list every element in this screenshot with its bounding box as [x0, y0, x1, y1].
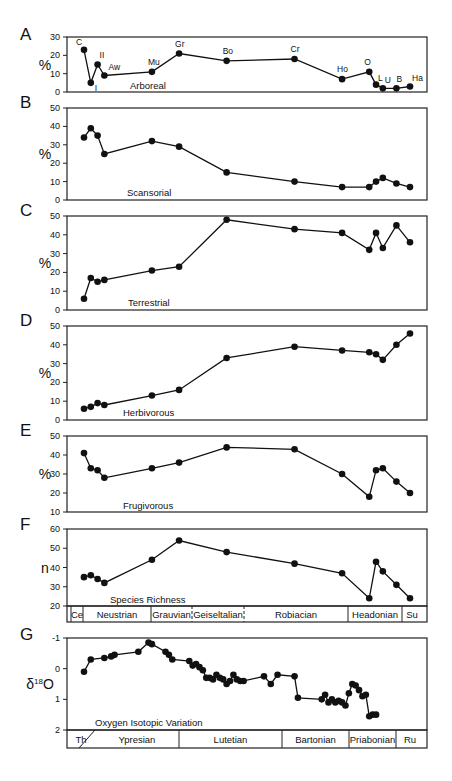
data-point: [407, 330, 414, 337]
data-point: [223, 355, 230, 362]
series-label: Species Richness: [110, 594, 186, 605]
data-point: [373, 178, 380, 185]
y-axis-label: %: [39, 255, 51, 271]
point-label: L: [378, 73, 383, 83]
data-point: [291, 560, 298, 567]
y-tick-label: 40: [50, 450, 60, 460]
data-point: [322, 691, 329, 698]
data-point: [176, 50, 183, 57]
data-point: [176, 537, 183, 544]
stage-label: Th: [75, 734, 86, 745]
panel-letter: D: [20, 311, 32, 330]
y-tick-label: 10: [50, 177, 60, 187]
panel-letter: C: [20, 201, 32, 220]
data-point: [295, 695, 302, 702]
y-axis-label: %: [39, 146, 51, 162]
data-point: [200, 667, 207, 674]
stage-label: Ypresian: [119, 734, 156, 745]
data-point: [366, 69, 373, 76]
data-point: [373, 711, 380, 718]
y-tick-label: 0: [55, 87, 60, 97]
panel-letter: F: [20, 515, 30, 534]
data-point: [380, 245, 387, 252]
data-point: [101, 475, 108, 482]
data-point: [94, 400, 101, 407]
y-tick-label: 10: [50, 69, 60, 79]
y-axis-label: %: [39, 365, 51, 381]
data-point: [87, 125, 94, 132]
data-point: [94, 279, 101, 286]
point-label: Ho: [337, 64, 348, 74]
point-label: II: [100, 50, 105, 60]
panel-d: D01020304050%Herbivorous: [20, 311, 427, 425]
series-line: [84, 334, 410, 409]
data-point: [149, 557, 156, 564]
stage-label: Ru: [404, 734, 416, 745]
data-point: [87, 80, 94, 87]
y-tick-label: 20: [50, 267, 60, 277]
y-tick-label: 30: [50, 249, 60, 259]
plot-frame: [67, 216, 427, 310]
data-point: [101, 277, 108, 284]
series-label: Terrestrial: [128, 297, 170, 308]
data-point: [149, 267, 156, 274]
data-point: [393, 582, 400, 589]
point-label: Mu: [148, 57, 160, 67]
point-label: Ha: [412, 73, 423, 83]
data-point: [373, 558, 380, 565]
data-point: [101, 72, 108, 79]
data-point: [291, 446, 298, 453]
y-tick-label: 0: [55, 305, 60, 315]
y-tick-label: 30: [50, 582, 60, 592]
y-tick-label: 40: [50, 563, 60, 573]
data-point: [223, 549, 230, 556]
data-point: [223, 444, 230, 451]
data-point: [380, 465, 387, 472]
plot-frame: [67, 326, 427, 420]
panel-f: F2030405060nSpecies RichnessCeNeustrianG…: [20, 515, 427, 622]
stage-label: Bartonian: [295, 734, 336, 745]
data-point: [339, 471, 346, 478]
data-point: [342, 702, 349, 709]
data-point: [393, 342, 400, 349]
data-point: [87, 656, 94, 663]
data-point: [94, 132, 101, 139]
point-label: B: [396, 74, 402, 84]
y-tick-label: 20: [50, 601, 60, 611]
point-label: O: [364, 57, 371, 67]
data-point: [339, 230, 346, 237]
data-point: [339, 184, 346, 191]
data-point: [339, 570, 346, 577]
y-tick-label: 0: [55, 664, 60, 674]
data-point: [407, 595, 414, 602]
data-point: [373, 230, 380, 237]
data-point: [274, 672, 281, 679]
data-point: [373, 351, 380, 358]
data-point: [227, 678, 234, 685]
data-point: [81, 295, 88, 302]
data-point: [87, 465, 94, 472]
series-line: [84, 541, 410, 599]
data-point: [393, 180, 400, 187]
data-point: [169, 656, 176, 663]
data-point: [149, 138, 156, 145]
panel-c: C01020304050%Terrestrial: [20, 201, 427, 315]
data-point: [407, 83, 414, 90]
data-point: [111, 652, 118, 659]
y-tick-label: 50: [50, 103, 60, 113]
point-label: Bo: [223, 46, 234, 56]
panel-letter: B: [20, 93, 31, 112]
data-point: [149, 69, 156, 76]
data-point: [291, 226, 298, 233]
series-label: Frugivorous: [123, 500, 173, 511]
series-label: Arboreal: [130, 80, 166, 91]
y-axis-label: n: [41, 560, 49, 576]
data-point: [267, 681, 274, 688]
data-point: [81, 450, 88, 457]
y-tick-label: 0: [55, 415, 60, 425]
data-point: [87, 404, 94, 411]
data-point: [407, 490, 414, 497]
data-point: [363, 691, 370, 698]
data-point: [366, 494, 373, 501]
panel-letter: E: [20, 421, 31, 440]
